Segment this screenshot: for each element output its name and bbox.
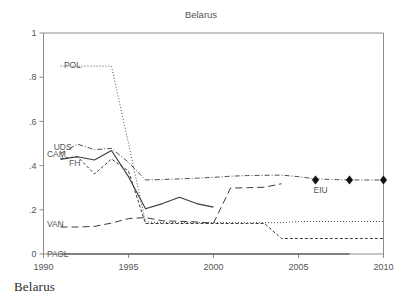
series-label-cam: CAM [47,149,66,159]
x-tick-label: 2000 [203,262,223,272]
series-label-pacl: PACL [47,249,69,259]
chart-figure: Belarus 0.2.4.6.81 19901995200020052010 … [0,0,403,306]
x-tick-label: 1990 [33,262,53,272]
series-line-uds [61,144,384,180]
series-label-eiu: EIU [314,185,328,195]
series-line-pol [61,66,384,222]
belarus-line-chart: Belarus 0.2.4.6.81 19901995200020052010 … [0,0,403,306]
eiu-diamond-marker [380,176,387,184]
x-tick-label: 1995 [118,262,138,272]
y-axis-ticks: 0.2.4.6.81 [29,28,44,259]
figure-caption: Belarus [14,279,55,295]
series-label-van: VAN [47,219,64,229]
series-line-fh [61,157,384,239]
chart-title: Belarus [185,9,217,20]
x-axis-ticks: 19901995200020052010 [33,254,393,272]
series-inline-labels: POLUDSCAMFHVANPACLEIU [47,60,328,259]
data-series-lines [61,66,384,254]
eiu-diamond-marker [346,176,353,184]
y-tick-label: .2 [29,205,37,215]
y-tick-label: 1 [31,28,36,38]
y-tick-label: .8 [29,72,37,82]
y-tick-label: 0 [31,249,36,259]
x-tick-label: 2005 [288,262,308,272]
series-label-pol: POL [64,60,81,70]
eiu-diamond-marker [312,176,319,184]
x-tick-label: 2010 [373,262,393,272]
series-line-cam [61,151,214,209]
y-tick-label: .6 [29,117,37,127]
y-tick-label: .4 [29,161,37,171]
series-line-van [61,184,282,227]
series-label-fh: FH [69,158,80,168]
